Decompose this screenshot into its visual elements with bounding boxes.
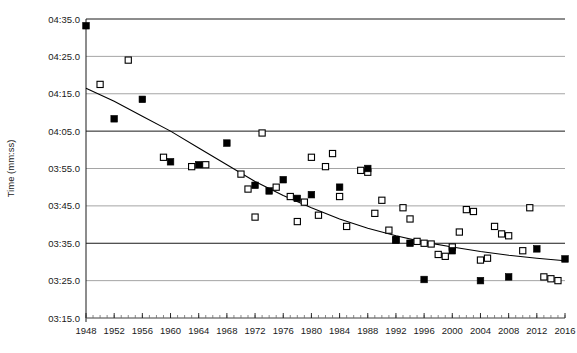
data-point-open (477, 257, 483, 263)
data-point-filled (195, 161, 202, 168)
y-tick-label: 03:45.0 (48, 200, 80, 211)
x-axis-tick-labels: 1948195219561960196419681972197619801984… (75, 325, 575, 336)
open-square-markers (97, 57, 561, 284)
y-axis-tick-labels: 03:15.003:25.003:35.003:45.003:55.004:05… (48, 14, 80, 324)
data-point-open (499, 231, 505, 237)
data-point-open (315, 212, 321, 218)
y-tick-label: 03:15.0 (48, 313, 80, 324)
y-tick-label: 03:55.0 (48, 163, 80, 174)
data-point-open (336, 193, 342, 199)
data-point-filled (534, 246, 541, 253)
x-tick-label: 1948 (75, 325, 96, 336)
data-point-open (435, 251, 441, 257)
x-tick-label: 1984 (329, 325, 350, 336)
data-point-open (203, 162, 209, 168)
data-point-open (125, 57, 131, 63)
data-point-open (463, 207, 469, 213)
data-point-filled (449, 247, 456, 254)
x-tick-label: 1996 (414, 325, 435, 336)
y-axis-title-text: Time (mm:ss) (5, 140, 16, 198)
trend-line (86, 88, 565, 261)
data-point-filled (308, 191, 315, 198)
data-point-open (400, 205, 406, 211)
x-tick-label: 2000 (442, 325, 463, 336)
data-point-open (160, 154, 166, 160)
x-tick-label: 2008 (498, 325, 519, 336)
data-point-filled (364, 165, 371, 172)
data-point-open (245, 186, 251, 192)
data-point-open (329, 150, 335, 156)
data-point-open (308, 154, 314, 160)
data-point-open (372, 210, 378, 216)
data-point-filled (505, 274, 512, 281)
y-tick-label: 04:35.0 (48, 14, 80, 25)
data-point-open (527, 205, 533, 211)
data-point-open (541, 274, 547, 280)
data-point-open (273, 184, 279, 190)
y-tick-label: 03:25.0 (48, 275, 80, 286)
data-point-filled (266, 188, 273, 195)
x-tick-label: 1952 (104, 325, 125, 336)
data-point-filled (294, 195, 301, 202)
data-point-open (470, 208, 476, 214)
data-point-open (238, 171, 244, 177)
data-point-filled (407, 240, 414, 247)
x-tick-label: 1976 (273, 325, 294, 336)
data-point-filled (224, 140, 231, 147)
data-point-open (379, 197, 385, 203)
x-tick-label: 1960 (160, 325, 181, 336)
data-point-open (322, 164, 328, 170)
y-tick-label: 03:35.0 (48, 238, 80, 249)
data-point-open (491, 223, 497, 229)
data-point-open (301, 199, 307, 205)
data-point-filled (393, 237, 400, 244)
data-point-filled (562, 256, 569, 263)
x-tick-label: 1968 (216, 325, 237, 336)
data-point-open (407, 216, 413, 222)
data-point-open (189, 164, 195, 170)
y-axis-title: Time (mm:ss) (5, 140, 16, 198)
data-point-filled (83, 22, 90, 29)
x-tick-label: 1964 (188, 325, 209, 336)
data-point-filled (280, 176, 287, 183)
data-point-filled (477, 277, 484, 284)
trend-curve-path (86, 88, 565, 261)
data-point-filled (421, 276, 428, 283)
data-point-open (428, 241, 434, 247)
x-tick-label: 2016 (554, 325, 575, 336)
data-point-open (97, 81, 103, 87)
data-point-filled (139, 96, 146, 103)
data-point-open (484, 255, 490, 261)
data-point-filled (167, 158, 174, 165)
data-point-open (344, 223, 350, 229)
data-point-open (287, 193, 293, 199)
y-tick-label: 04:05.0 (48, 126, 80, 137)
data-point-open (259, 130, 265, 136)
data-point-open (414, 238, 420, 244)
filled-square-markers (83, 22, 569, 283)
chart-container: 03:15.003:25.003:35.003:45.003:55.004:05… (0, 0, 577, 353)
data-point-open (358, 167, 364, 173)
x-tick-label: 1972 (244, 325, 265, 336)
data-point-open (555, 278, 561, 284)
x-tick-label: 1956 (132, 325, 153, 336)
data-point-open (294, 218, 300, 224)
data-point-filled (336, 184, 343, 191)
x-tick-label: 1992 (385, 325, 406, 336)
data-point-open (548, 276, 554, 282)
y-tick-label: 04:25.0 (48, 51, 80, 62)
data-point-open (506, 233, 512, 239)
x-tick-label: 1980 (301, 325, 322, 336)
y-tick-label: 04:15.0 (48, 88, 80, 99)
x-tick-label: 2004 (470, 325, 491, 336)
x-tick-label: 1988 (357, 325, 378, 336)
time-vs-year-scatter-chart: 03:15.003:25.003:35.003:45.003:55.004:05… (0, 0, 577, 353)
data-point-open (520, 248, 526, 254)
data-point-open (252, 214, 258, 220)
data-point-open (456, 229, 462, 235)
data-point-filled (111, 115, 118, 122)
data-point-open (386, 227, 392, 233)
data-point-open (442, 253, 448, 259)
data-point-filled (252, 182, 259, 189)
x-tick-label: 2012 (526, 325, 547, 336)
